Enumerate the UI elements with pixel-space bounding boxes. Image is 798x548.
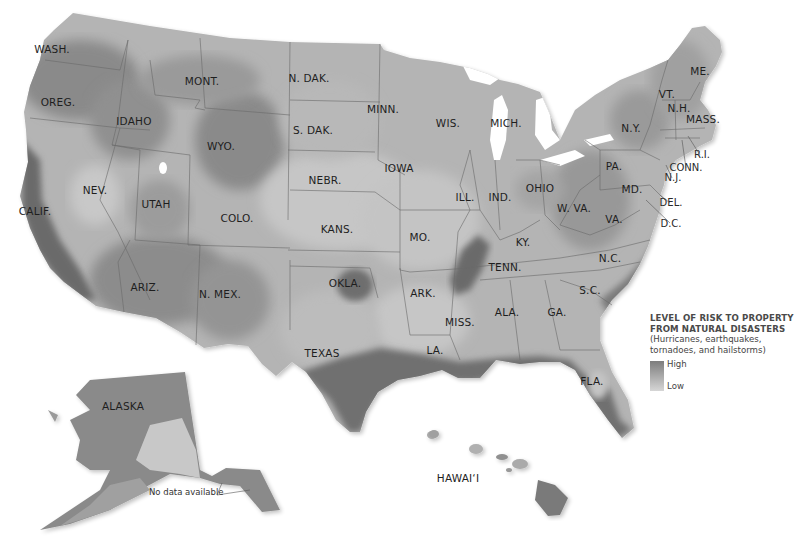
state-label-nc: N.C. xyxy=(599,252,622,264)
state-label-fla: FLA. xyxy=(580,375,603,387)
state-label-miss: MISS. xyxy=(445,316,475,328)
legend-scale: High Low xyxy=(650,359,798,391)
state-label-del: DEL. xyxy=(660,197,683,208)
state-label-mass: MASS. xyxy=(686,113,720,125)
state-label-md: MD. xyxy=(621,183,642,195)
legend-title-line2: FROM NATURAL DISASTERS xyxy=(650,324,798,335)
state-label-ny: N.Y. xyxy=(621,122,641,134)
state-label-me: ME. xyxy=(690,65,710,77)
state-label-kans: KANS. xyxy=(321,223,354,235)
state-label-ind: IND. xyxy=(488,191,511,203)
legend-low-label: Low xyxy=(667,381,684,391)
state-label-idaho: IDAHO xyxy=(116,115,151,127)
state-label-wis: WIS. xyxy=(436,117,460,129)
state-label-nmex: N. MEX. xyxy=(199,288,241,300)
state-label-va: VA. xyxy=(605,213,622,225)
state-label-ark: ARK. xyxy=(410,287,436,299)
state-label-ky: KY. xyxy=(516,236,531,248)
legend: LEVEL OF RISK TO PROPERTY FROM NATURAL D… xyxy=(650,313,798,391)
alaska-landmass xyxy=(40,372,280,530)
state-label-la: LA. xyxy=(426,344,443,356)
state-label-wyo: WYO. xyxy=(207,140,235,152)
state-label-wva: W. VA. xyxy=(557,202,591,214)
state-label-ala: ALA. xyxy=(495,306,519,318)
state-label-wash: WASH. xyxy=(34,43,70,55)
state-label-nev: NEV. xyxy=(83,184,107,196)
state-label-ri: R.I. xyxy=(694,149,710,160)
no-data-note: No data available xyxy=(149,487,223,497)
state-label-texas: TEXAS xyxy=(303,347,339,359)
state-label-mo: MO. xyxy=(410,231,431,243)
state-label-minn: MINN. xyxy=(367,103,399,115)
legend-high-label: High xyxy=(667,359,687,369)
legend-gradient-bar xyxy=(650,361,664,391)
state-label-ohio: OHIO xyxy=(526,182,554,194)
legend-title-line1: LEVEL OF RISK TO PROPERTY xyxy=(650,313,798,324)
state-label-dc: D.C. xyxy=(660,218,681,229)
state-label-colo: COLO. xyxy=(220,212,253,224)
state-label-sdak: S. DAK. xyxy=(293,124,333,136)
state-label-hawaii: HAWAI‘I xyxy=(437,472,479,484)
state-label-iowa: IOWA xyxy=(384,162,414,174)
state-label-nebr: NEBR. xyxy=(309,174,342,186)
state-label-oreg: OREG. xyxy=(41,96,76,108)
state-label-alaska: ALASKA xyxy=(102,400,145,412)
state-label-mont: MONT. xyxy=(185,75,220,87)
state-label-ndak: N. DAK. xyxy=(288,72,329,84)
state-label-sc: S.C. xyxy=(579,284,600,296)
state-label-okla: OKLA. xyxy=(329,277,362,289)
legend-subtitle-line2: tornadoes, and hailstorms) xyxy=(650,345,798,356)
state-label-mich: MICH. xyxy=(490,117,522,129)
us-risk-map: WASH.OREG.IDAHOMONT.WYO.N. DAK.S. DAK.MI… xyxy=(0,0,798,548)
state-label-pa: PA. xyxy=(606,160,623,172)
state-label-vt: VT. xyxy=(659,88,675,100)
state-label-nj: N.J. xyxy=(665,172,682,183)
state-label-calif: CALIF. xyxy=(19,205,51,217)
state-label-ariz: ARIZ. xyxy=(130,281,159,293)
state-label-ill: ILL. xyxy=(456,191,475,203)
legend-subtitle-line1: (Hurricanes, earthquakes, xyxy=(650,334,798,345)
state-label-utah: UTAH xyxy=(141,198,170,210)
state-label-tenn: TENN. xyxy=(487,261,521,273)
state-label-ga: GA. xyxy=(547,306,566,318)
